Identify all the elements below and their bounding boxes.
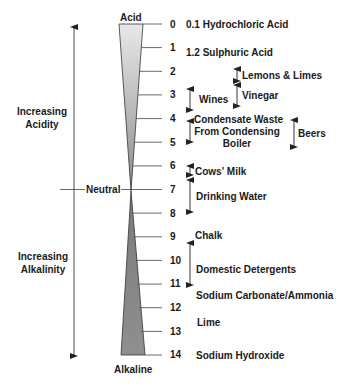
sulphuric-acid-label: 1.2 Sulphuric Acid: [186, 47, 273, 58]
tick-5: 5: [170, 137, 176, 148]
alkaline-label: Alkaline: [114, 364, 152, 375]
tick-12: 12: [170, 302, 181, 313]
domestic-detergents-label: Domestic Detergents: [196, 264, 296, 275]
neutral-label: Neutral: [85, 184, 121, 195]
condensate-waste-label: Condensate Waste From Condensing Boiler: [194, 114, 280, 149]
tick-3: 3: [170, 89, 176, 100]
tick-10: 10: [170, 255, 181, 266]
vinegar-label: Vinegar: [242, 90, 279, 101]
cows-milk-label: Cows' Milk: [195, 166, 246, 177]
acidity-label-line1: Increasing: [12, 106, 72, 117]
condensate-line3: Boiler: [194, 138, 280, 149]
tick-6: 6: [170, 160, 176, 171]
alkaline-wedge: [121, 191, 145, 355]
chalk-label: Chalk: [195, 230, 222, 241]
tick-4: 4: [170, 113, 176, 124]
sodium-hydroxide-label: Sodium Hydroxide: [196, 350, 284, 361]
tick-14: 14: [170, 349, 181, 360]
hydrochloric-acid-label: 0.1 Hydrochloric Acid: [186, 19, 288, 30]
condensate-line2: From Condensing: [194, 126, 280, 137]
lemons-limes-label: Lemons & Limes: [242, 70, 322, 81]
condensate-line1: Condensate Waste: [194, 114, 280, 125]
tick-9: 9: [170, 231, 176, 242]
beers-label: Beers: [298, 128, 326, 139]
lime-label: Lime: [197, 317, 220, 328]
sodium-carbonate-ammonia-label: Sodium Carbonate/Ammonia: [196, 290, 333, 301]
increasing-alkalinity-label: Increasing Alkalinity: [12, 251, 74, 275]
tick-8: 8: [170, 208, 176, 219]
wines-label: Wines: [199, 94, 228, 105]
acidity-label-line2: Acidity: [12, 119, 72, 130]
alkalinity-label-line2: Alkalinity: [12, 264, 74, 275]
tick-13: 13: [170, 326, 181, 337]
tick-0: 0: [170, 19, 176, 30]
acid-label: Acid: [120, 12, 142, 23]
tick-11: 11: [170, 278, 181, 289]
tick-7: 7: [170, 184, 176, 195]
increasing-acidity-label: Increasing Acidity: [12, 106, 72, 130]
alkalinity-label-line1: Increasing: [12, 251, 74, 262]
tick-2: 2: [170, 66, 176, 77]
tick-1: 1: [170, 42, 176, 53]
drinking-water-label: Drinking Water: [196, 191, 267, 202]
